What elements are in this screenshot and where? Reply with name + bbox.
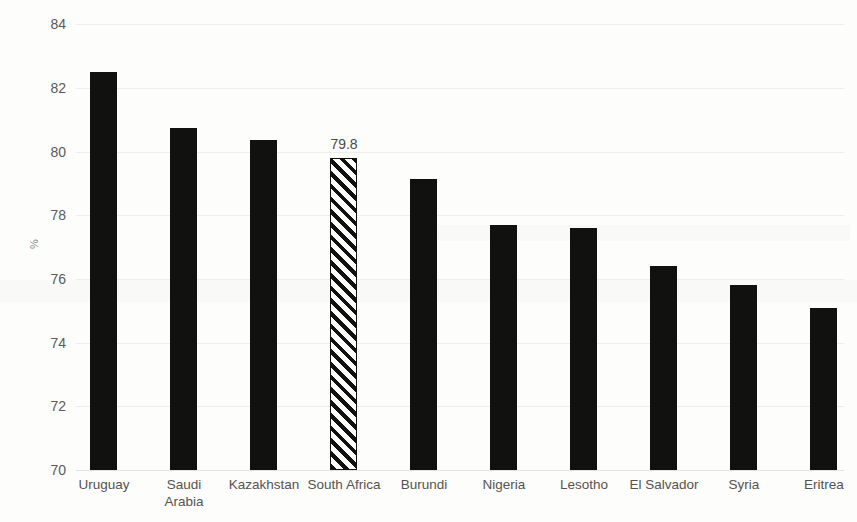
bar-group: 79.8South Africa bbox=[304, 0, 384, 522]
bar-group: Uruguay bbox=[64, 0, 144, 522]
x-axis-category-label: Saudi Arabia bbox=[141, 476, 227, 510]
bar[interactable] bbox=[410, 179, 437, 470]
x-axis-category-label: Lesotho bbox=[541, 476, 627, 493]
bar[interactable] bbox=[90, 72, 117, 470]
x-axis-category-label: Nigeria bbox=[461, 476, 547, 493]
x-axis-category-label: Burundi bbox=[381, 476, 467, 493]
bar-group: El Salvador bbox=[624, 0, 704, 522]
bar[interactable] bbox=[570, 228, 597, 470]
bar-group: Eritrea bbox=[784, 0, 857, 522]
bar[interactable] bbox=[810, 308, 837, 470]
plot-area: UruguaySaudi ArabiaKazakhstan79.8South A… bbox=[0, 0, 857, 522]
bar[interactable] bbox=[730, 285, 757, 470]
bar-group: Burundi bbox=[384, 0, 464, 522]
bar-chart: % 84 82 80 78 76 74 72 70 UruguaySaudi A… bbox=[0, 0, 857, 522]
bar-group: Saudi Arabia bbox=[144, 0, 224, 522]
bar[interactable] bbox=[250, 140, 277, 470]
x-axis-category-label: Uruguay bbox=[61, 476, 147, 493]
x-axis-category-label: South Africa bbox=[301, 476, 387, 493]
x-axis-category-label: El Salvador bbox=[621, 476, 707, 493]
x-axis-category-label: Eritrea bbox=[781, 476, 857, 493]
bar[interactable] bbox=[490, 225, 517, 470]
bar-group: Nigeria bbox=[464, 0, 544, 522]
x-axis-category-label: Kazakhstan bbox=[221, 476, 307, 493]
bar[interactable] bbox=[650, 266, 677, 470]
x-axis-category-label: Syria bbox=[701, 476, 787, 493]
bar[interactable] bbox=[170, 128, 197, 470]
bar-group: Lesotho bbox=[544, 0, 624, 522]
bar-value-label: 79.8 bbox=[309, 136, 379, 152]
bar-group: Kazakhstan bbox=[224, 0, 304, 522]
bar-highlighted[interactable] bbox=[330, 158, 357, 470]
bar-group: Syria bbox=[704, 0, 784, 522]
